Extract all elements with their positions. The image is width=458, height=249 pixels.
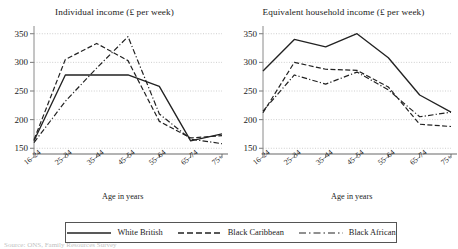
legend-swatch-solid bbox=[66, 229, 112, 237]
chart-panel-individual-income: Individual income (£ per week) 150200250… bbox=[0, 0, 229, 200]
chart-title-right: Equivalent household income (£ per week) bbox=[229, 7, 458, 17]
chart-title-left: Individual income (£ per week) bbox=[0, 7, 229, 17]
legend-swatch-dashed bbox=[177, 229, 223, 237]
legend-label-black-caribbean: Black Caribbean bbox=[228, 228, 284, 237]
svg-text:300: 300 bbox=[244, 57, 258, 67]
series-line-black-african bbox=[263, 72, 451, 117]
chart-panel-household-income: Equivalent household income (£ per week)… bbox=[229, 0, 458, 200]
source-note: Source: ONS, Family Resources Survey bbox=[4, 241, 117, 249]
chart-legend: White British Black Caribbean Black Afri… bbox=[65, 222, 397, 243]
svg-text:250: 250 bbox=[244, 86, 258, 96]
legend-item-white-british: White British bbox=[66, 228, 162, 237]
x-axis-title-left: Age in years bbox=[102, 192, 143, 201]
svg-text:200: 200 bbox=[15, 115, 29, 125]
svg-text:350: 350 bbox=[244, 29, 258, 39]
series-line-white-british bbox=[263, 34, 451, 112]
legend-label-black-african: Black African bbox=[349, 228, 396, 237]
legend-label-white-british: White British bbox=[117, 228, 162, 237]
svg-text:200: 200 bbox=[244, 115, 258, 125]
svg-text:250: 250 bbox=[15, 86, 29, 96]
svg-text:150: 150 bbox=[244, 143, 258, 153]
series-line-black-african bbox=[34, 37, 222, 144]
legend-item-black-african: Black African bbox=[298, 228, 396, 237]
series-line-white-british bbox=[34, 75, 222, 141]
legend-item-black-caribbean: Black Caribbean bbox=[177, 228, 284, 237]
figure-income-by-ethnicity: Individual income (£ per week) 150200250… bbox=[0, 0, 458, 249]
svg-text:350: 350 bbox=[15, 29, 29, 39]
chart-panels: Individual income (£ per week) 150200250… bbox=[0, 0, 458, 200]
series-line-black-caribbean bbox=[34, 43, 222, 139]
legend-swatch-dashdot bbox=[298, 229, 344, 237]
x-axis-title-right: Age in years bbox=[331, 192, 372, 201]
svg-text:300: 300 bbox=[15, 57, 29, 67]
svg-text:150: 150 bbox=[15, 143, 29, 153]
